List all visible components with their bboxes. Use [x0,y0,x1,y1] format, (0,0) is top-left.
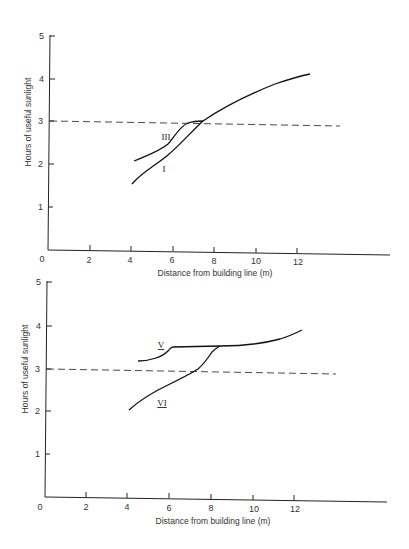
origin-label: 0 [37,502,42,512]
y-tick-label: 1 [35,449,40,459]
lower-chart: 5 4 3 2 1 0 2 4 6 8 10 12 Distance from … [20,277,387,526]
y-axis [48,35,50,250]
y-tick-label: 4 [36,321,41,331]
x-axis-label: Distance from building line (m) [156,516,271,526]
upper-chart: 5 4 3 2 1 0 2 4 6 8 10 12 Distance from … [23,31,390,278]
x-tick-label: 4 [127,255,132,265]
y-axis-label: Hours of useful sunlight [23,77,33,166]
x-tick-label: 10 [251,256,261,266]
y-tick-label: 1 [38,202,43,212]
x-axis-label: Distance from building line (m) [158,268,273,278]
x-tick-label: 10 [249,504,259,514]
x-tick-label: 8 [208,503,213,513]
curve-VI [129,346,220,410]
curve-label-V: V [158,340,165,350]
x-tick-label: 6 [166,503,171,513]
x-axis [48,250,390,255]
x-tick-label: 2 [86,255,91,265]
x-tick-label: 8 [211,256,216,266]
x-tick-label: 6 [169,255,174,265]
y-axis [45,281,47,497]
x-tick-label: 12 [293,257,303,267]
y-tick-label: 5 [39,31,44,41]
curve-label-I: I [163,164,166,174]
y-tick-label: 5 [36,277,41,287]
figure: 5 4 3 2 1 0 2 4 6 8 10 12 Distance from … [0,0,409,549]
y-axis-label: Hours of useful sunlight [20,324,30,413]
y-tick-label: 4 [39,74,44,84]
x-axis [45,497,387,502]
curve-label-VI: VI [157,398,167,408]
y-tick-label: 3 [38,116,43,126]
y-tick-label: 2 [38,159,43,169]
curve-label-III: III [162,132,171,142]
curve-I [132,74,310,184]
y-tick-label: 3 [35,364,40,374]
x-tick-label: 2 [83,502,88,512]
origin-label: 0 [39,254,44,264]
x-tick-label: 4 [124,502,129,512]
y-tick-label: 2 [35,406,40,416]
x-tick-label: 12 [290,504,300,514]
